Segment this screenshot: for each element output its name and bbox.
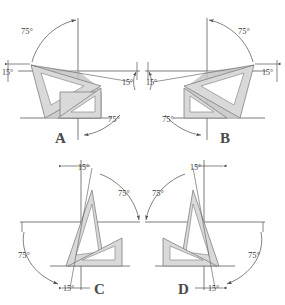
panel-d: 15° 75° 75° 15° D xyxy=(145,160,265,297)
panel-a-label-15-left: 15° xyxy=(2,68,13,77)
panel-d-label-15-bottom: 15° xyxy=(208,284,219,293)
panel-a-arc-75-top xyxy=(32,20,76,62)
panel-c-letter: C xyxy=(94,281,105,297)
panel-a: 75° 15° 15° 75° A xyxy=(2,18,140,146)
panel-c-label-15-top: 15° xyxy=(78,163,89,172)
diagram-canvas: 75° 15° 15° 75° A 75° 15° 15° xyxy=(0,0,285,305)
panel-c-label-75-right: 75° xyxy=(118,188,130,198)
panel-c-label-75-left: 75° xyxy=(18,250,30,260)
panel-b-label-75-top: 75° xyxy=(238,26,250,36)
panel-a-arc-15-center xyxy=(134,72,136,90)
panel-a-label-15-center: 15° xyxy=(122,78,133,87)
panel-d-label-15-top: 15° xyxy=(190,163,201,172)
panel-a-label-75-bottom: 75° xyxy=(108,114,120,124)
panel-b-label-15-right: 15° xyxy=(262,68,273,77)
panel-d-label-75-right: 75° xyxy=(248,250,260,260)
panel-d-label-75-left: 75° xyxy=(152,188,164,198)
panel-b: 75° 15° 15° 75° B xyxy=(145,18,277,146)
panel-a-letter: A xyxy=(55,130,66,146)
panel-c-label-15-bottom: 15° xyxy=(63,284,74,293)
panel-c: 15° 75° 75° 15° C xyxy=(18,160,140,297)
panel-b-label-15-center: 15° xyxy=(146,78,157,87)
panel-a-label-75-top: 75° xyxy=(21,26,33,36)
panel-b-label-75-bottom: 75° xyxy=(162,114,174,124)
panel-b-letter: B xyxy=(220,130,230,146)
panel-d-letter: D xyxy=(178,281,189,297)
